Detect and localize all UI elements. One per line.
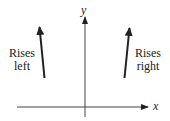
rises-right-line2: right — [133, 60, 163, 73]
rises-left-line2: left — [7, 60, 37, 73]
y-axis-label: y — [81, 4, 86, 16]
x-axis-label: x — [153, 100, 158, 112]
rises-left-label: Rises left — [7, 47, 37, 73]
rises-left-arrow — [40, 27, 45, 78]
rises-right-label: Rises right — [133, 47, 163, 73]
rises-right-arrow — [125, 28, 130, 78]
